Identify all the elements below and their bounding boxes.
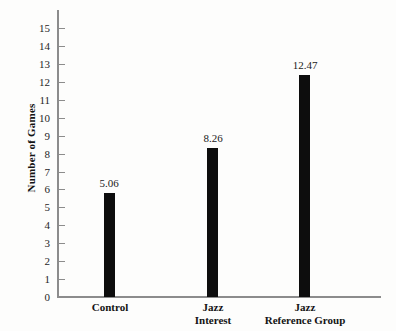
y-tick-label-8: 8 xyxy=(22,149,50,160)
y-tick-label-13: 13 xyxy=(22,59,50,70)
y-tick-13 xyxy=(59,64,65,65)
y-tick-14 xyxy=(59,46,65,47)
y-tick-label-4: 4 xyxy=(22,220,50,231)
y-tick-label-14: 14 xyxy=(22,41,50,52)
y-tick-label-3: 3 xyxy=(22,238,50,249)
y-tick-1 xyxy=(59,279,65,280)
y-tick-label-6: 6 xyxy=(22,184,50,195)
bar-control xyxy=(104,193,115,297)
y-tick-2 xyxy=(59,261,65,262)
y-tick-8 xyxy=(59,154,65,155)
y-tick-12 xyxy=(59,82,65,83)
bar-value-jazz-reference-group: 12.47 xyxy=(275,60,335,71)
y-tick-7 xyxy=(59,172,65,173)
bar-jazz-interest xyxy=(207,148,218,297)
y-tick-label-9: 9 xyxy=(22,131,50,142)
y-tick-label-1: 1 xyxy=(22,274,50,285)
y-tick-0 xyxy=(59,297,65,298)
y-tick-label-2: 2 xyxy=(22,256,50,267)
y-tick-9 xyxy=(59,136,65,137)
y-tick-11 xyxy=(59,100,65,101)
y-tick-15 xyxy=(59,28,65,29)
y-tick-label-15: 15 xyxy=(22,23,50,34)
y-tick-10 xyxy=(59,118,65,119)
y-tick-6 xyxy=(59,189,65,190)
bar-value-control: 5.06 xyxy=(79,178,139,189)
bar-chart: Number of Games 0 1 2 3 4 5 6 7 8 9 10 1… xyxy=(0,0,396,331)
bar-value-jazz-interest: 8.26 xyxy=(183,133,243,144)
y-tick-label-10: 10 xyxy=(22,113,50,124)
y-tick-label-11: 11 xyxy=(22,95,50,106)
y-tick-label-5: 5 xyxy=(22,202,50,213)
category-label-jazz-reference-group-line-2: Reference Group xyxy=(230,314,380,327)
y-tick-5 xyxy=(59,207,65,208)
bar-jazz-reference-group xyxy=(299,75,310,297)
y-tick-label-7: 7 xyxy=(22,167,50,178)
y-tick-3 xyxy=(59,243,65,244)
y-tick-label-12: 12 xyxy=(22,77,50,88)
y-tick-4 xyxy=(59,225,65,226)
category-label-jazz-reference-group-line-1: Jazz xyxy=(230,301,380,314)
category-label-jazz-reference-group: Jazz Reference Group xyxy=(230,301,380,327)
